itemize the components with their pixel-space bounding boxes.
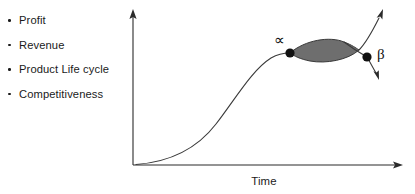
chart-svg: ∝ β Time bbox=[0, 0, 415, 194]
x-axis-label: Time bbox=[251, 175, 277, 187]
s-curve-path bbox=[136, 53, 290, 165]
chart-area: ∝ β Time bbox=[0, 0, 415, 194]
y-axis bbox=[129, 9, 136, 165]
arrow-down-right-icon bbox=[373, 70, 379, 80]
product-life-cycle-diagram: Profit Revenue Product Life cycle Compet… bbox=[0, 0, 415, 194]
alpha-label: ∝ bbox=[274, 32, 285, 48]
upper-branch-path bbox=[359, 18, 379, 50]
beta-point-marker bbox=[362, 52, 371, 61]
arrow-up-right-icon bbox=[377, 9, 383, 19]
x-axis bbox=[133, 161, 403, 168]
alpha-point-marker bbox=[285, 48, 294, 57]
bifurcation-lens bbox=[290, 39, 359, 62]
beta-label: β bbox=[377, 46, 385, 62]
